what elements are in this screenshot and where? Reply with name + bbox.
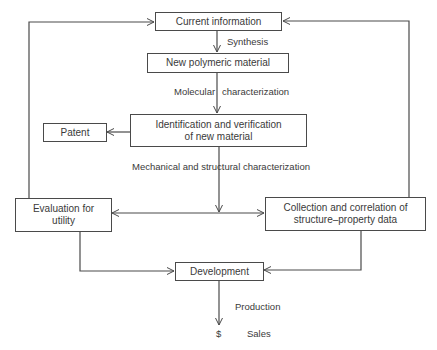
evaluation-node: Evaluation for utility	[15, 198, 112, 232]
identification-label-line1: Identification and verification	[155, 119, 281, 131]
synthesis-label: Synthesis	[227, 36, 268, 47]
development-label: Development	[190, 266, 249, 278]
evaluation-label-line1: Evaluation for	[33, 203, 94, 215]
new-polymeric-material-node: New polymeric material	[147, 53, 289, 73]
characterization-label: characterization	[222, 86, 289, 97]
production-label: Production	[235, 301, 280, 312]
identification-label-line2: of new material	[185, 131, 253, 143]
collection-node: Collection and correlation of structure–…	[265, 197, 426, 231]
collection-label-line1: Collection and correlation of	[284, 202, 408, 214]
current-information-label: Current information	[176, 16, 262, 28]
evaluation-label-line2: utility	[52, 215, 75, 227]
new-polymeric-material-label: New polymeric material	[166, 57, 270, 69]
identification-node: Identification and verification of new m…	[130, 114, 307, 147]
current-information-node: Current information	[155, 12, 282, 31]
dollar-sign: $	[216, 328, 221, 339]
molecular-label: Molecular	[174, 86, 215, 97]
sales-label: Sales	[247, 328, 271, 339]
patent-label: Patent	[61, 127, 90, 139]
development-node: Development	[175, 262, 264, 281]
collection-label-line2: structure–property data	[294, 214, 397, 226]
patent-node: Patent	[43, 123, 107, 142]
mechanical-structural-label: Mechanical and structural characterizati…	[132, 161, 310, 172]
